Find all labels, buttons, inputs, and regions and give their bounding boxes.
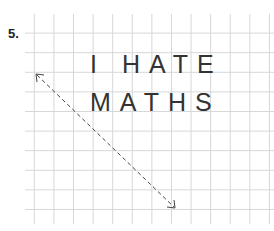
dashed-arrow-icon bbox=[0, 0, 274, 231]
